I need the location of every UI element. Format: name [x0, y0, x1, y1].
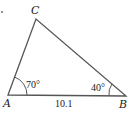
angle-arc-b: [109, 84, 112, 96]
stray-mark: [1, 11, 3, 13]
angle-a-value: 70°: [26, 79, 40, 90]
vertex-label-c: C: [31, 4, 40, 17]
angle-b-value: 40°: [91, 82, 105, 93]
vertex-label-b: B: [118, 98, 127, 111]
vertex-label-a: A: [2, 97, 11, 110]
triangle-diagram: C A B 70° 40° 10.1: [0, 0, 130, 115]
side-ab-length: 10.1: [55, 98, 73, 109]
